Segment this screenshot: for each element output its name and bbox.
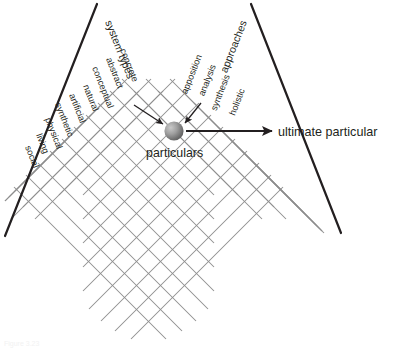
ultimate-particular-label: ultimate particular xyxy=(278,125,377,139)
left-label-social: social xyxy=(23,144,41,169)
figure-caption: Figure 3.23 xyxy=(4,340,40,348)
converging-arrows xyxy=(134,103,201,124)
arrow-from-left xyxy=(134,105,163,124)
right-axis-line xyxy=(251,4,341,233)
right-axis-title: approaches xyxy=(217,18,248,74)
arrow-from-right xyxy=(185,103,201,123)
right-label-holistic: holistic xyxy=(227,87,247,117)
right-axis-labels: apposition analysis synthesis holistic xyxy=(179,53,247,117)
particulars-label: particulars xyxy=(146,146,203,160)
figure-canvas: system types approaches concrete abstrac… xyxy=(0,0,399,351)
ultimate-particular-sphere xyxy=(164,121,183,140)
left-label-living: living xyxy=(34,132,51,155)
diagram-svg: system types approaches concrete abstrac… xyxy=(0,0,399,351)
